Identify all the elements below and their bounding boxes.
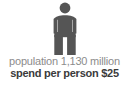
person-left-arm-divider <box>57 20 58 34</box>
person-left-leg-icon <box>54 35 63 55</box>
person-figure-svg <box>48 2 82 55</box>
person-figure-icon <box>0 0 129 56</box>
person-torso-icon <box>53 15 76 33</box>
person-right-leg-icon <box>67 35 76 55</box>
population-spend-infographic: population 1,130 million spend per perso… <box>0 0 129 93</box>
person-right-arm-divider <box>72 20 73 34</box>
person-head-icon <box>59 3 70 14</box>
stat-lines: population 1,130 million spend per perso… <box>0 56 129 80</box>
stat-population: population 1,130 million <box>9 56 120 67</box>
stat-spend-per-person: spend per person $25 <box>10 68 119 79</box>
